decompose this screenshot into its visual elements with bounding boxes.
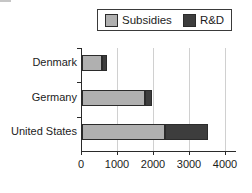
x-tick-label-2000: 2000 <box>141 158 165 171</box>
x-tick-label-4000: 4000 <box>213 158 237 171</box>
bar-denmark-subsidies <box>82 55 102 71</box>
category-label-germany: Germany <box>0 91 77 104</box>
legend-label-rnd: R&D <box>200 14 224 26</box>
plot-area <box>81 48 236 152</box>
category-label-united-states: United States <box>0 125 77 138</box>
bar-united-states-subsidies <box>82 124 165 140</box>
x-tick-2000 <box>153 151 154 155</box>
x-tick-3000 <box>189 151 190 155</box>
y-tick-denmark <box>77 48 81 49</box>
x-tick-label-3000: 3000 <box>177 158 201 171</box>
legend-label-subsidies: Subsidies <box>122 14 172 26</box>
bar-germany-r-d <box>145 90 152 106</box>
legend-swatch-subsidies <box>105 14 118 27</box>
x-tick-4000 <box>225 151 226 155</box>
x-tick-1000 <box>117 151 118 155</box>
scan-artifact <box>0 0 11 2</box>
gridline-4000 <box>225 48 226 151</box>
stacked-bar-chart-figure: Subsidies R&D DenmarkGermanyUnited State… <box>0 0 252 193</box>
x-tick-0 <box>81 151 82 155</box>
legend: Subsidies R&D <box>97 9 232 31</box>
x-tick-label-1000: 1000 <box>105 158 129 171</box>
y-tick-germany <box>77 82 81 83</box>
bar-denmark-r-d <box>102 55 107 71</box>
x-tick-label-0: 0 <box>78 158 84 171</box>
legend-swatch-rnd <box>183 14 196 27</box>
bar-united-states-r-d <box>165 124 208 140</box>
bar-germany-subsidies <box>82 90 145 106</box>
y-tick-united-states <box>77 117 81 118</box>
category-label-denmark: Denmark <box>0 56 77 69</box>
